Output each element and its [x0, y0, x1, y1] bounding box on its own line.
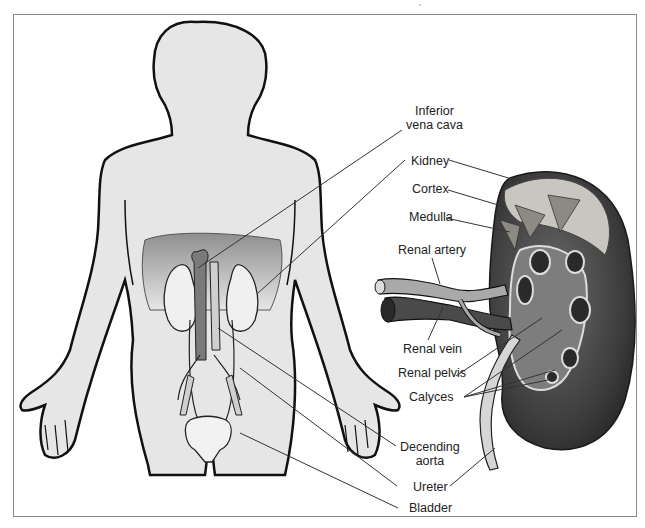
label-calyces: Calyces: [409, 390, 453, 404]
label-inferior-vena-cava: Inferior vena cava: [406, 104, 463, 132]
label-renal-vein: Renal vein: [403, 342, 462, 356]
label-line: vena cava: [406, 118, 463, 132]
label-kidney: Kidney: [411, 154, 449, 168]
anatomy-illustration: [0, 0, 645, 528]
label-line: Decending: [400, 440, 460, 454]
label-line: aorta: [400, 454, 460, 468]
label-renal-pelvis: Renal pelvis: [398, 366, 466, 380]
human-body: [21, 22, 400, 475]
label-renal-artery: Renal artery: [398, 243, 466, 257]
label-ureter: Ureter: [413, 480, 448, 494]
body-aorta: [210, 262, 220, 350]
label-medulla: Medulla: [409, 210, 453, 224]
label-descending-aorta: Decending aorta: [400, 440, 460, 468]
label-cortex: Cortex: [412, 182, 449, 196]
body-left-kidney: [164, 265, 196, 332]
label-bladder: Bladder: [409, 501, 452, 515]
label-line: Inferior: [406, 104, 463, 118]
